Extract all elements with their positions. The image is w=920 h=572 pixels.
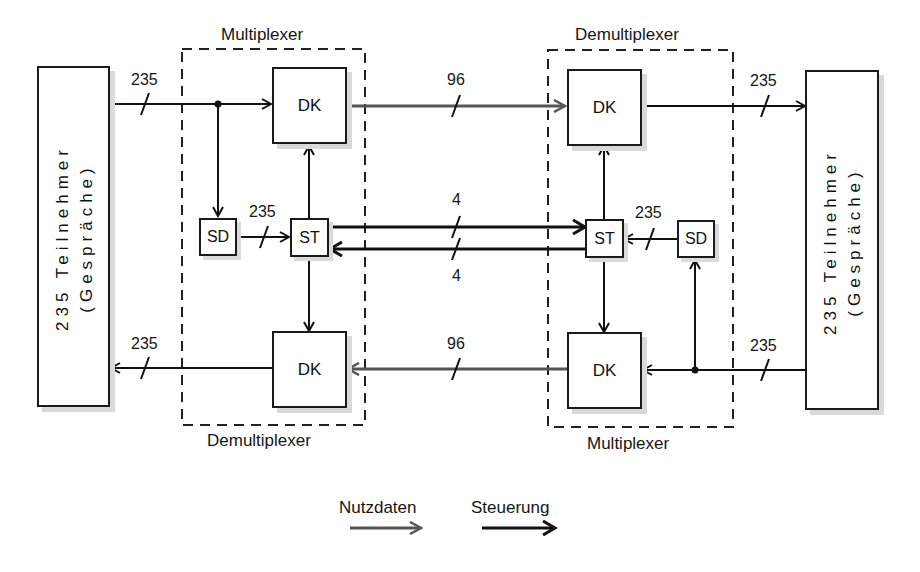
count-right-in: 235	[750, 338, 777, 354]
left-st-block: ST	[290, 218, 329, 257]
right-group-bottom-label: Multiplexer	[587, 435, 669, 452]
right-group-top-label: Demultiplexer	[575, 26, 679, 43]
count-bottom-trunk: 96	[447, 336, 465, 352]
count-right-sd-st: 235	[635, 205, 662, 221]
subscribers-right-subtitle: (Gespräche)	[843, 72, 867, 412]
count-left-out: 235	[131, 336, 158, 352]
subscribers-right-count: 235 Teilnehmer	[819, 72, 843, 412]
count-top-trunk: 96	[447, 72, 465, 88]
subscribers-left-count: 235 Teilnehmer	[51, 68, 75, 408]
left-dk-demux-block: DK	[272, 331, 347, 408]
subscribers-left-block: 235 Teilnehmer (Gespräche)	[37, 66, 110, 407]
left-group-top-label: Multiplexer	[221, 26, 303, 43]
count-left-in: 235	[131, 72, 158, 88]
right-dk-mux-block: DK	[567, 332, 642, 409]
count-right-out: 235	[750, 73, 777, 89]
subscribers-right-label: 235 Teilnehmer (Gespräche)	[819, 72, 867, 412]
right-st-block: ST	[585, 219, 624, 258]
left-dk-mux-block: DK	[272, 67, 347, 144]
legend-user-data-label: Nutzdaten	[339, 499, 417, 516]
subscribers-left-label: 235 Teilnehmer (Gespräche)	[51, 68, 99, 408]
legend-control-label: Steuerung	[471, 499, 549, 516]
subscribers-left-subtitle: (Gespräche)	[75, 68, 99, 408]
count-control-forward: 4	[452, 192, 461, 208]
right-sd-block: SD	[677, 220, 715, 258]
count-left-sd-st: 235	[249, 204, 276, 220]
left-group-bottom-label: Demultiplexer	[207, 432, 311, 449]
count-control-back: 4	[452, 268, 461, 284]
right-dk-demux-block: DK	[567, 69, 642, 146]
subscribers-right-block: 235 Teilnehmer (Gespräche)	[805, 70, 879, 410]
left-sd-block: SD	[199, 218, 237, 256]
